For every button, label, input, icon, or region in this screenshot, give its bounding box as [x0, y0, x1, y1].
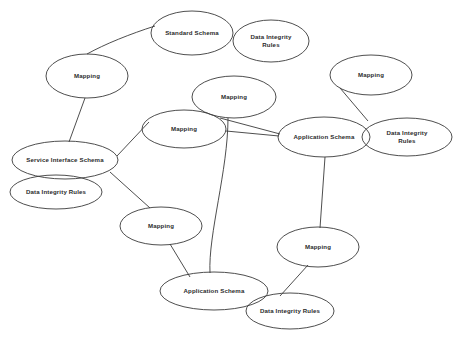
node-service-interface-schema[interactable] [12, 141, 118, 179]
node-dir-application-right[interactable] [362, 118, 452, 156]
edge-mapping-bottom-left-to-app-bottom [170, 244, 190, 277]
node-mapping-bottom-left[interactable] [120, 207, 202, 245]
node-mapping-right-top[interactable] [330, 55, 412, 95]
node-application-schema-right[interactable] [278, 117, 370, 157]
nodes-layer [10, 11, 452, 329]
node-mapping-bottom-right[interactable] [277, 227, 359, 267]
node-mapping-center-lower[interactable] [142, 110, 226, 148]
node-standard-schema[interactable] [151, 11, 233, 55]
diagram-svg [0, 0, 455, 342]
node-mapping-left-top[interactable] [46, 54, 128, 98]
diagram-canvas: Standard SchemaData Integrity RulesMappi… [0, 0, 455, 342]
edge-mapping-left-to-service [69, 98, 85, 142]
node-dir-service-interface[interactable] [10, 175, 102, 209]
edge-service-to-mapping-bottom-left [110, 172, 150, 208]
edge-standard-to-mapping-left [87, 26, 155, 54]
node-dir-application-bottom[interactable] [246, 293, 334, 329]
node-mapping-center-upper[interactable] [192, 76, 276, 118]
edge-mapping-bottom-right-to-dir-bottom [280, 265, 308, 296]
edge-app-right-to-mapping-bottom-right [320, 157, 325, 228]
node-dir-standard[interactable] [233, 20, 309, 62]
